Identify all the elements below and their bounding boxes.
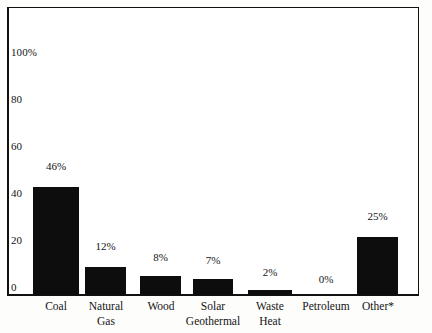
x-label-natural-gas-line1: Natural bbox=[75, 299, 137, 314]
bar-petroleum: 0% bbox=[303, 8, 349, 295]
x-label-solar-geothermal: Solar Geothermal bbox=[179, 299, 247, 329]
x-axis-labels: Coal Natural Gas Wood Solar Geothermal W… bbox=[9, 299, 418, 333]
bar-rect-other bbox=[357, 237, 398, 295]
bar-rect-waste-heat bbox=[248, 290, 292, 295]
bar-rect-natural-gas bbox=[85, 267, 126, 295]
x-label-waste-heat: Waste Heat bbox=[239, 299, 301, 329]
bar-value-natural-gas: 12% bbox=[85, 240, 126, 252]
x-label-solar-geothermal-line1: Solar bbox=[179, 299, 247, 314]
bar-value-solar-geothermal: 7% bbox=[193, 254, 233, 266]
bar-rect-solar-geothermal bbox=[193, 279, 233, 295]
bar-value-waste-heat: 2% bbox=[248, 266, 292, 278]
x-label-waste-heat-line2: Heat bbox=[239, 314, 301, 329]
bar-rect-coal bbox=[33, 187, 79, 295]
bars-layer: 46% 12% 8% 7% 2% 0% 25% bbox=[9, 8, 418, 295]
bar-natural-gas: 12% bbox=[85, 8, 126, 295]
x-label-waste-heat-line1: Waste bbox=[239, 299, 301, 314]
x-label-other-line1: Other* bbox=[348, 299, 408, 314]
bar-chart: 100% 80 60 40 20 0 46% 12% 8% 7% 2% 0% bbox=[0, 0, 432, 333]
bar-value-other: 25% bbox=[357, 210, 398, 222]
x-label-natural-gas: Natural Gas bbox=[75, 299, 137, 329]
bar-solar-geothermal: 7% bbox=[193, 8, 233, 295]
x-label-other: Other* bbox=[348, 299, 408, 314]
bar-value-wood: 8% bbox=[140, 251, 181, 263]
bar-waste-heat: 2% bbox=[248, 8, 292, 295]
bar-other: 25% bbox=[357, 8, 398, 295]
bar-coal: 46% bbox=[33, 8, 79, 295]
bar-value-coal: 46% bbox=[33, 160, 79, 172]
bar-rect-wood bbox=[140, 276, 181, 295]
x-label-natural-gas-line2: Gas bbox=[75, 314, 137, 329]
x-label-solar-geothermal-line2: Geothermal bbox=[179, 314, 247, 329]
bar-value-petroleum: 0% bbox=[303, 273, 349, 285]
bar-wood: 8% bbox=[140, 8, 181, 295]
